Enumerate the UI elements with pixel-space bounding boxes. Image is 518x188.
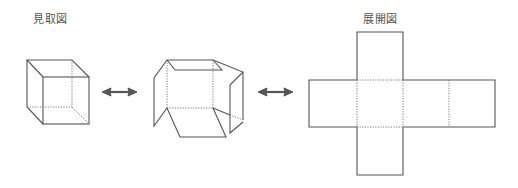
cube-net <box>309 32 495 175</box>
cube-unfolding <box>154 60 243 137</box>
cube-diagram <box>0 0 518 188</box>
double-arrow-icon <box>258 88 293 96</box>
cube-perspective <box>27 60 89 124</box>
double-arrow-icon <box>102 88 137 96</box>
